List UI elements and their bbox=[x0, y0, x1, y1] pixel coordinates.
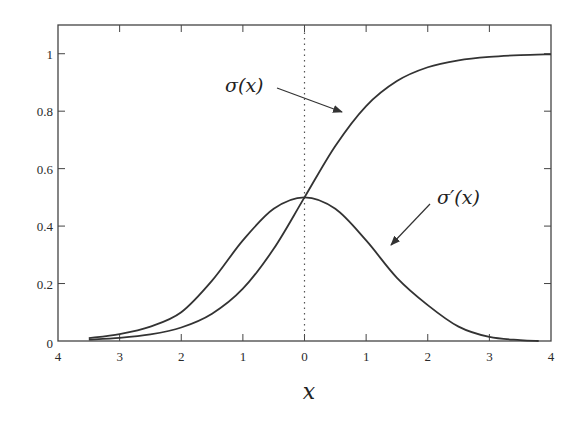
sigma-prime-label: σ′(x) bbox=[437, 186, 480, 208]
arrow-icon bbox=[391, 204, 430, 245]
y-tick-label: 0.2 bbox=[37, 277, 53, 292]
x-tick-label: 0 bbox=[301, 349, 308, 364]
x-tick-label: 2 bbox=[425, 349, 432, 364]
x-tick-label: 4 bbox=[548, 349, 555, 364]
x-tick-label: 1 bbox=[363, 349, 370, 364]
sigmoid-derivative-curve bbox=[89, 197, 539, 341]
x-axis-title: x bbox=[303, 379, 316, 404]
sigma-label: σ(x) bbox=[225, 74, 264, 96]
x-tick-label: 3 bbox=[116, 349, 123, 364]
y-tick-label: 0 bbox=[47, 336, 54, 351]
arrow-icon bbox=[277, 88, 342, 112]
y-tick-label: 0.6 bbox=[37, 162, 54, 177]
x-tick-label: 4 bbox=[55, 349, 62, 364]
sigmoid-chart: 43210123400.20.40.60.81 σ(x)σ′(x) x bbox=[0, 0, 581, 429]
curve-annotations: σ(x)σ′(x) bbox=[225, 74, 480, 245]
y-tick-label: 0.4 bbox=[37, 219, 54, 234]
curves bbox=[89, 54, 551, 341]
y-tick-label: 0.8 bbox=[37, 104, 53, 119]
y-tick-label: 1 bbox=[47, 47, 54, 62]
x-tick-label: 2 bbox=[178, 349, 185, 364]
x-tick-label: 3 bbox=[486, 349, 493, 364]
x-tick-label: 1 bbox=[240, 349, 247, 364]
sigmoid-curve bbox=[89, 54, 551, 339]
